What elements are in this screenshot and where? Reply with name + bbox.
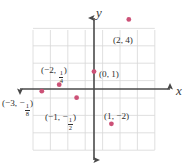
point-label-two: (2, 4) (113, 36, 133, 45)
point-label-neg3: (−3, −18) (2, 99, 33, 118)
denominator: 2 (68, 125, 72, 132)
point-label-zero: (0, 1) (99, 70, 119, 79)
point-label-neg2: (−2, 14) (41, 66, 67, 85)
paren-close: ) (73, 112, 76, 122)
paren-close: ) (64, 65, 67, 75)
data-point (39, 89, 44, 94)
y-sign: − (62, 112, 67, 122)
point-label-one: (1, −2) (104, 112, 129, 121)
comma: , (54, 65, 59, 75)
data-point (109, 121, 114, 126)
x-axis-label: x (176, 84, 182, 97)
paren-close: ) (30, 98, 33, 108)
coordinate-plane-svg (0, 0, 192, 168)
denominator: 4 (59, 78, 63, 85)
data-point (126, 17, 131, 22)
coordinate-plane-figure: y x (−3, −18) (−2, 14) (−1, −12) (0, 1) … (0, 0, 192, 168)
point-label-neg1: (−1, −12) (45, 113, 76, 132)
x-value: −3 (5, 98, 15, 108)
y-axis-label: y (96, 6, 102, 19)
data-point (92, 69, 97, 74)
x-value: −1 (48, 112, 58, 122)
data-point (74, 95, 79, 100)
denominator: 8 (25, 111, 29, 118)
x-value: −2 (44, 65, 54, 75)
y-sign: − (19, 98, 24, 108)
